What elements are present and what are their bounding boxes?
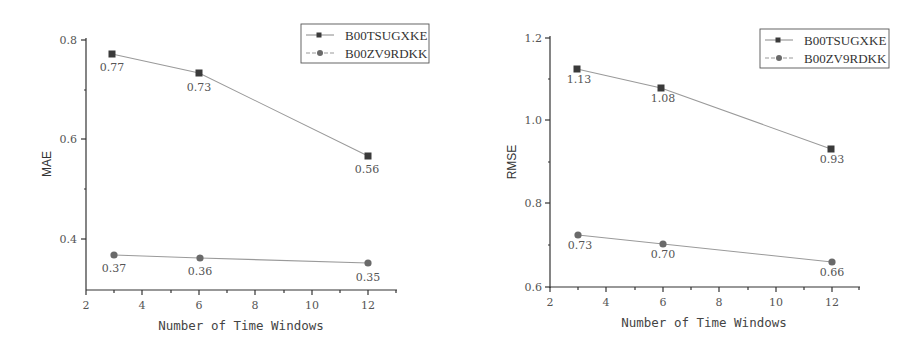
- rmse-data-label: 1.08: [651, 92, 676, 105]
- rmse-xtick-2: 2: [547, 296, 554, 309]
- mae-axes: [81, 38, 397, 295]
- mae-data-label: 0.73: [187, 81, 212, 94]
- mae-ytick-0.8: 0.8: [60, 34, 78, 47]
- rmse-ytick-1.2: 1.2: [525, 32, 543, 45]
- mae-chart: 0.8 0.6 0.4 2 4 6 8 10 12 Number of Time…: [40, 24, 429, 333]
- rmse-data-label: 1.13: [567, 73, 592, 86]
- rmse-axes: [545, 36, 860, 292]
- rmse-point-square: [658, 85, 665, 92]
- mae-xtick-4: 4: [139, 299, 146, 312]
- rmse-point-circle: [828, 258, 835, 265]
- rmse-y-axis-title: RMSE: [505, 145, 519, 180]
- rmse-xtick-4: 4: [603, 296, 610, 309]
- mae-point-square: [196, 70, 203, 77]
- mae-xtick-6: 6: [196, 299, 203, 312]
- legend-circle-marker-icon: [317, 50, 323, 56]
- rmse-data-label: 0.66: [820, 266, 845, 279]
- rmse-ytick-0.6: 0.6: [525, 281, 543, 294]
- rmse-legend-label-1: B00TSUGXKE: [804, 33, 886, 48]
- rmse-data-label: 0.93: [820, 153, 845, 166]
- mae-ytick-0.4: 0.4: [60, 233, 78, 246]
- mae-x-axis-title: Number of Time Windows: [158, 318, 324, 333]
- rmse-ytick-1.0: 1.0: [525, 114, 543, 127]
- rmse-data-label: 0.73: [568, 239, 593, 252]
- mae-legend-label-2: B00ZV9RDKK: [345, 46, 428, 61]
- mae-series-b00tsugxke-line: [112, 54, 368, 156]
- mae-xtick-12: 12: [361, 299, 375, 312]
- rmse-xtick-10: 10: [769, 296, 783, 309]
- legend-square-marker-icon: [776, 38, 781, 43]
- mae-point-circle: [364, 259, 371, 266]
- mae-xtick-8: 8: [252, 299, 259, 312]
- mae-data-label: 0.56: [355, 163, 380, 176]
- rmse-series-b00tsugxke-line: [577, 69, 831, 149]
- mae-point-circle: [196, 254, 203, 261]
- rmse-point-circle: [659, 240, 666, 247]
- rmse-point-square: [574, 66, 581, 73]
- mae-point-square: [109, 51, 116, 58]
- mae-series-b00zv9rdkk-line: [114, 255, 368, 263]
- legend-square-marker-icon: [317, 33, 322, 38]
- mae-legend: B00TSUGXKE B00ZV9RDKK: [301, 24, 429, 63]
- mae-ytick-0.6: 0.6: [60, 133, 78, 146]
- mae-data-label: 0.35: [356, 271, 381, 284]
- rmse-x-axis-title: Number of Time Windows: [621, 315, 787, 330]
- rmse-data-label: 0.70: [651, 248, 676, 261]
- mae-data-label: 0.37: [102, 262, 127, 275]
- mae-data-label: 0.77: [100, 61, 125, 74]
- mae-legend-label-1: B00TSUGXKE: [345, 28, 427, 43]
- rmse-point-square: [828, 146, 835, 153]
- mae-point-square: [365, 153, 372, 160]
- rmse-series-b00zv9rdkk-line: [578, 235, 832, 262]
- rmse-xtick-6: 6: [660, 296, 667, 309]
- rmse-xtick-8: 8: [716, 296, 723, 309]
- mae-y-axis-title: MAE: [40, 151, 54, 177]
- mae-xtick-10: 10: [305, 299, 319, 312]
- mae-xtick-2: 2: [83, 299, 90, 312]
- figure: 0.8 0.6 0.4 2 4 6 8 10 12 Number of Time…: [0, 0, 914, 352]
- rmse-ytick-0.8: 0.8: [525, 197, 543, 210]
- legend-circle-marker-icon: [776, 55, 782, 61]
- mae-point-circle: [110, 251, 117, 258]
- rmse-chart: 1.2 1.0 0.8 0.6 2 4 6 8 10 12 Number of …: [505, 29, 889, 330]
- rmse-point-circle: [574, 231, 581, 238]
- rmse-xtick-12: 12: [825, 296, 839, 309]
- rmse-legend: B00TSUGXKE B00ZV9RDKK: [760, 29, 889, 68]
- rmse-legend-label-2: B00ZV9RDKK: [804, 51, 887, 66]
- mae-data-label: 0.36: [188, 265, 213, 278]
